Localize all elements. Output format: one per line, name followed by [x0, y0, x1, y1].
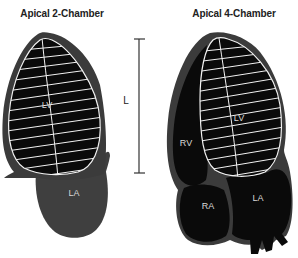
- la-label-4ch: LA: [252, 193, 263, 203]
- right-atrium: [180, 184, 230, 241]
- lv-label-4ch: LV: [234, 113, 244, 123]
- length-measurement: [134, 39, 145, 173]
- ra-label: RA: [202, 201, 215, 211]
- rv-label: RV: [180, 138, 192, 148]
- length-label: L: [123, 95, 129, 106]
- left-atrium-2ch: [36, 172, 108, 238]
- la-label-2ch: LA: [68, 188, 79, 198]
- apical-2-chamber-view: LV LA: [0, 32, 110, 237]
- echo-views-diagram: LV LA L: [0, 0, 298, 258]
- lv-cavity-4ch: [200, 38, 281, 177]
- lv-label-2ch: LV: [42, 100, 52, 110]
- apical-4-chamber-view: LV RV RA LA: [167, 32, 293, 254]
